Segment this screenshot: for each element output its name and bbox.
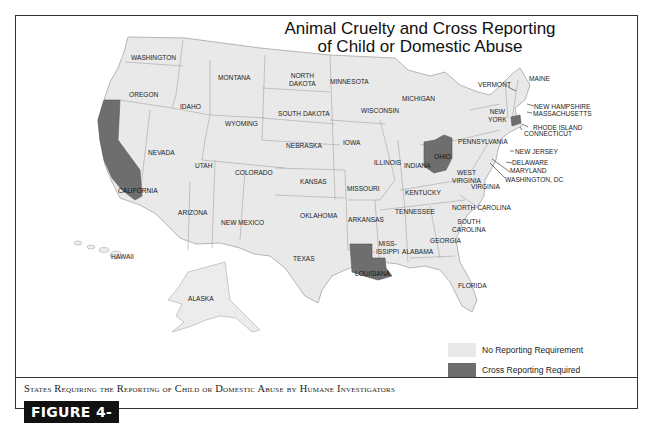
label-utah: UTAH: [195, 162, 212, 170]
label-georgia: GEORGIA: [430, 237, 461, 245]
label-wisconsin: WISCONSIN: [361, 107, 399, 115]
label-pennsylvania: PENNSYLVANIA: [458, 138, 508, 146]
legend-swatch-light: [448, 343, 476, 357]
title-line-1: Animal Cruelty and Cross Reporting: [280, 20, 560, 38]
label-delaware: DELAWARE: [512, 159, 549, 167]
label-kentucky: KENTUCKY: [405, 189, 441, 197]
label-new-mexico: NEW MEXICO: [221, 219, 264, 227]
legend-item-no-requirement: No Reporting Requirement: [448, 340, 583, 360]
label-massachusetts: MASSACHUSETTS: [533, 110, 592, 118]
label-hawaii: HAWAII: [111, 253, 134, 261]
label-kansas: KANSAS: [300, 178, 327, 186]
label-minnesota: MINNESOTA: [330, 78, 369, 86]
label-nebraska: NEBRASKA: [286, 142, 322, 150]
label-nevada: NEVADA: [148, 149, 175, 157]
label-new-york: NEWYORK: [488, 108, 507, 123]
label-tennessee: TENNESSEE: [395, 208, 435, 216]
label-montana: MONTANA: [218, 74, 250, 82]
figure-label: FIGURE 4-21: [24, 401, 119, 423]
label-florida: FLORIDA: [458, 282, 487, 290]
label-california: CALIFORNIA: [118, 187, 158, 195]
label-north-carolina: NORTH CAROLINA: [452, 204, 511, 212]
label-louisiana: LOUISIANA: [355, 270, 390, 278]
figure-caption: States Requiring the Reporting of Child …: [24, 383, 395, 394]
label-alabama: ALABAMA: [402, 248, 433, 256]
legend-swatch-dark: [448, 363, 476, 377]
label-south-carolina: SOUTHCAROLINA: [452, 218, 486, 233]
label-new-jersey: NEW JERSEY: [515, 148, 558, 156]
legend-label-cross-reporting: Cross Reporting Required: [482, 365, 580, 375]
label-colorado: COLORADO: [235, 169, 273, 177]
label-maine: MAINE: [529, 75, 550, 83]
label-oregon: OREGON: [129, 91, 158, 99]
label-arizona: ARIZONA: [178, 209, 207, 217]
label-michigan: MICHIGAN: [402, 95, 435, 103]
title-line-2: of Child or Domestic Abuse: [280, 38, 560, 56]
label-idaho: IDAHO: [180, 103, 201, 111]
map-title: Animal Cruelty and Cross Reporting of Ch…: [280, 20, 560, 56]
label-arkansas: ARKANSAS: [348, 216, 384, 224]
label-south-dakota: SOUTH DAKOTA: [278, 110, 330, 118]
label-texas: TEXAS: [293, 255, 315, 263]
label-vermont: VERMONT: [478, 81, 511, 89]
label-indiana: INDIANA: [404, 162, 431, 170]
label-washington: WASHINGTON: [131, 54, 176, 62]
label-iowa: IOWA: [343, 139, 360, 147]
label-virginia: VIRGINIA: [471, 183, 500, 191]
legend-label-no-requirement: No Reporting Requirement: [482, 345, 583, 355]
label-north-dakota: NORTHDAKOTA: [289, 72, 316, 87]
map-legend: No Reporting Requirement Cross Reporting…: [448, 340, 583, 380]
label-washington-dc: WASHINGTON, DC: [505, 176, 563, 184]
alaska-shape: [168, 262, 260, 332]
label-oklahoma: OKLAHOMA: [300, 212, 337, 220]
label-connecticut: CONNECTICUT: [524, 130, 572, 138]
label-alaska: ALASKA: [188, 295, 214, 303]
label-wyoming: WYOMING: [225, 120, 258, 128]
label-missouri: MISSOURI: [347, 185, 380, 193]
label-illinois: ILLINOIS: [374, 159, 401, 167]
label-ohio: OHIO: [434, 153, 451, 161]
label-mississippi: MISS-ISSIPPI: [376, 240, 399, 255]
label-west-virginia: WESTVIRGINIA: [452, 169, 481, 184]
label-maryland: MARYLAND: [510, 167, 547, 175]
